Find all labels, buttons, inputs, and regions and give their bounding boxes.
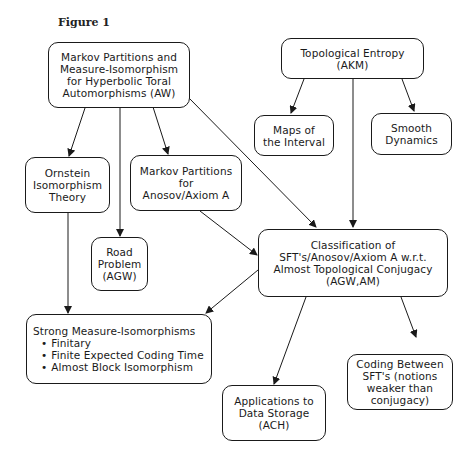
node-text: Road (106, 246, 133, 258)
node-text: Almost Topological Conjugacy (273, 263, 432, 275)
node-text: the Interval (263, 136, 325, 148)
node-text: (ACH) (259, 419, 290, 431)
node-text: Coding Between (356, 358, 443, 370)
node-text: Topological Entropy (300, 47, 404, 59)
edge-aw-ornstein (69, 108, 85, 156)
node-akm: Topological Entropy (AKM) (281, 38, 424, 79)
edge-classification-coding (401, 297, 416, 337)
diagram-canvas: Figure 1 Markov Partitions and Measure-I… (0, 0, 476, 458)
bullet-item: Finite Expected Coding Time (33, 349, 204, 361)
node-smooth: Smooth Dynamics (371, 113, 452, 155)
node-storage: Applications to Data Storage (ACH) (222, 385, 326, 441)
node-text: conjugacy) (371, 394, 430, 406)
node-text: Anosov/Axiom A (143, 189, 230, 201)
node-text: Isomorphism (33, 179, 102, 191)
node-text: (AGW,AM) (326, 275, 380, 287)
edge-classification-storage (274, 297, 306, 384)
node-text: Markov Partitions and (61, 51, 177, 63)
edge-akm-smooth (402, 79, 414, 111)
node-text: SFT's (notions (363, 370, 438, 382)
node-text: Data Storage (239, 407, 310, 419)
node-text: for Hyperbolic Toral (67, 75, 171, 87)
edge-classification-strong (206, 270, 258, 313)
node-text: Classification of (311, 239, 396, 251)
node-text: Smooth (391, 122, 432, 134)
node-ornstein: Ornstein Isomorphism Theory (25, 157, 110, 213)
node-coding: Coding Between SFT's (notions weaker tha… (347, 354, 453, 410)
node-text: SFT's/Anosov/Axiom A w.r.t. (279, 251, 426, 263)
edge-akm-maps (291, 79, 304, 113)
node-classification: Classification of SFT's/Anosov/Axiom A w… (258, 229, 448, 297)
bullet-item: Finitary (33, 337, 91, 349)
node-text: Maps of (273, 124, 315, 136)
node-text: Ornstein (45, 167, 90, 179)
node-text: Problem (98, 258, 142, 270)
node-text: Theory (49, 191, 86, 203)
node-text: (AKM) (337, 59, 369, 71)
node-anosov: Markov Partitions for Anosov/Axiom A (130, 155, 242, 211)
edge-aw-anosov (153, 107, 168, 154)
node-road: Road Problem (AGW) (91, 237, 148, 291)
node-maps: Maps of the Interval (254, 115, 334, 156)
node-text: for (179, 177, 194, 189)
node-text: (AGW) (102, 270, 136, 282)
node-text: Dynamics (385, 134, 438, 146)
node-strong: Strong Measure-Isomorphisms Finitary Fin… (26, 314, 212, 384)
node-text: Measure-Isomorphism (60, 63, 178, 75)
node-text: weaker than (367, 382, 433, 394)
edge-anosov-classification (200, 211, 257, 255)
node-text: Automorphisms (AW) (62, 87, 175, 99)
bullet-item: Almost Block Isomorphism (33, 361, 193, 373)
figure-label: Figure 1 (58, 16, 110, 29)
node-aw: Markov Partitions and Measure-Isomorphis… (48, 42, 190, 108)
node-text: Markov Partitions (140, 165, 232, 177)
node-text: Applications to (234, 395, 314, 407)
node-title: Strong Measure-Isomorphisms (33, 325, 195, 337)
